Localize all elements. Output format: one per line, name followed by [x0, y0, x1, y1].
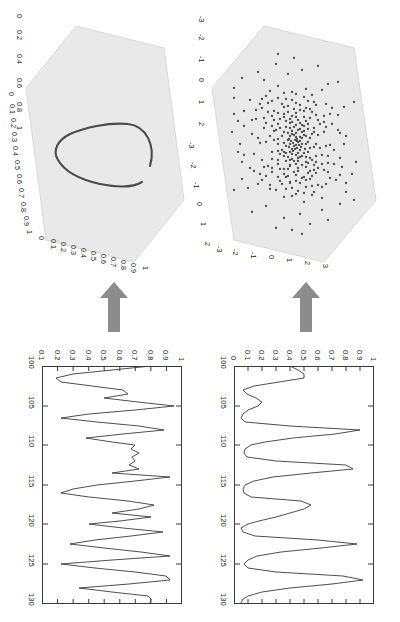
timeseries-a-xtick-4: 120 [219, 514, 228, 527]
trajectory3d-ytick-10: 0 [7, 92, 16, 96]
trajectory3d-xtick-4: 0.6 [99, 254, 108, 264]
scatter3d-xtick-6: -3 [215, 246, 224, 252]
scatter3d-xtick-4: -1 [249, 252, 258, 258]
timeseries-a-xtick-2: 110 [219, 435, 228, 447]
scatter3d-ztick-1: 1 [197, 100, 206, 104]
timeseries-a-xtick-0: 100 [219, 356, 228, 369]
trajectory3d-ytick-2: 0.8 [19, 202, 28, 212]
timeseries-a-xtick-1: 105 [219, 396, 228, 409]
rotated-figure-wrapper: 3 2 1 0 -1 -2 -3 2 1 0 -1 -2 -3 2 1 0 -1… [0, 0, 400, 622]
arrow-bottom [96, 282, 132, 332]
timeseries-b-xtick-2: 110 [27, 435, 36, 447]
timeseries-a-ytick-9: 0.9 [355, 350, 364, 361]
panel-timeseries-b: 0.1 0.2 0.3 0.4 0.5 0.6 0.7 0.8 0.9 1 10… [16, 344, 186, 606]
timeseries-a-ytick-10: 1 [369, 357, 378, 361]
scatter3d-xtick-3: 0 [267, 255, 276, 259]
figure-canvas: 3 2 1 0 -1 -2 -3 2 1 0 -1 -2 -3 2 1 0 -1… [0, 0, 400, 622]
trajectory3d-ytick-3: 0.7 [17, 188, 26, 198]
timeseries-a-ytick-5: 0.5 [299, 350, 308, 361]
timeseries-a-xtick-3: 115 [219, 475, 228, 487]
timeseries-b-ytick-7: 0.8 [146, 350, 155, 361]
timeseries-b-ytick-5: 0.6 [115, 350, 124, 361]
scatter3d-ztick-4: -2 [197, 34, 206, 40]
scatter3d-xtick-1: 2 [303, 261, 312, 265]
scatter3d-ytick-3: -1 [192, 182, 201, 188]
scatter3d-ytick-2: 0 [195, 202, 204, 206]
timeseries-b-ytick-1: 0.2 [53, 350, 62, 361]
timeseries-b-frame [43, 367, 182, 604]
scatter3d-xtick-2: 1 [285, 258, 294, 262]
timeseries-b-xtick-6: 130 [27, 593, 36, 606]
timeseries-b-xtick-0: 100 [27, 356, 36, 369]
panel-3d-scatter: 3 2 1 0 -1 -2 -3 2 1 0 -1 -2 -3 2 1 0 -1… [194, 14, 384, 274]
scatter3d-ztick-0: 2 [197, 122, 206, 126]
timeseries-b-xtick-4: 120 [27, 514, 36, 527]
panel-timeseries-a: 0 0.1 0.2 0.3 0.4 0.5 0.6 0.7 0.8 0.9 1 … [208, 344, 378, 606]
timeseries-b-svg [42, 366, 182, 604]
trajectory3d-ztick-3: 0.4 [15, 54, 24, 64]
scatter3d-box [212, 26, 376, 262]
timeseries-b-ytick-9: 1 [177, 357, 186, 361]
arrow-left-icon-2 [96, 282, 132, 332]
arrow-top [288, 282, 324, 332]
trajectory3d-ztick-4: 0.2 [15, 30, 24, 40]
scatter3d-xtick-5: -2 [231, 249, 240, 255]
trajectory3d-ytick-5: 0.5 [13, 160, 22, 170]
trajectory3d-ytick-7: 0.3 [10, 132, 19, 142]
timeseries-a-ytick-8: 0.8 [341, 350, 350, 361]
trajectory3d-xtick-0: 1 [141, 266, 150, 270]
trajectory3d-xtick-5: 0.5 [89, 251, 98, 261]
trajectory3d-xtick-3: 0.7 [109, 257, 118, 267]
trajectory3d-ytick-6: 0.4 [11, 146, 20, 156]
trajectory3d-ytick-0: 1 [25, 230, 34, 234]
timeseries-a-ytick-0: 0 [229, 356, 238, 360]
scatter3d-xtick-0: 3 [321, 264, 330, 268]
trajectory3d-box [26, 26, 184, 262]
timeseries-a-ytick-3: 0.3 [271, 350, 280, 361]
trajectory3d-xtick-2: 0.8 [119, 260, 128, 270]
timeseries-a-ytick-2: 0.2 [257, 350, 266, 361]
timeseries-b-ytick-0: 0.1 [37, 350, 46, 361]
trajectory3d-ztick-0: 1 [15, 126, 24, 130]
trajectory3d-ztick-5: 0 [15, 14, 24, 18]
scatter3d-ytick-0: 2 [203, 242, 212, 246]
scatter3d-ytick-1: 1 [199, 222, 208, 226]
timeseries-a-ytick-1: 0.1 [243, 350, 252, 361]
trajectory3d-xtick-7: 0.3 [69, 245, 78, 255]
timeseries-b-ytick-8: 0.9 [161, 350, 170, 361]
timeseries-b-xtick-3: 115 [27, 475, 36, 487]
trajectory3d-svg [4, 14, 192, 276]
timeseries-a-svg [234, 366, 374, 604]
panel-3d-trajectory: 1 0.9 0.8 0.7 0.6 0.5 0.4 0.3 0.2 0.1 0 … [4, 14, 192, 276]
timeseries-a-ytick-4: 0.4 [285, 350, 294, 361]
scatter3d-svg [194, 14, 384, 274]
timeseries-a-frame [235, 367, 374, 604]
trajectory3d-ztick-2: 0.6 [15, 78, 24, 88]
timeseries-b-ytick-3: 0.4 [84, 350, 93, 361]
timeseries-b-xtick-5: 125 [27, 554, 36, 567]
timeseries-a-xtick-6: 130 [219, 593, 228, 606]
trajectory3d-xtick-9: 0.1 [49, 239, 58, 249]
timeseries-a-xtick-5: 125 [219, 554, 228, 567]
scatter3d-ztick-2: 0 [197, 78, 206, 82]
scatter3d-ztick-3: -1 [197, 56, 206, 62]
trajectory3d-ytick-4: 0.6 [15, 174, 24, 184]
trajectory3d-xtick-8: 0.2 [59, 242, 68, 252]
arrow-left-icon [288, 282, 324, 332]
trajectory3d-xtick-10: 0 [37, 236, 46, 240]
trajectory3d-ytick-1: 0.9 [22, 216, 31, 226]
timeseries-b-ytick-4: 0.5 [99, 350, 108, 361]
scatter3d-ztick-5: -3 [197, 16, 206, 22]
trajectory3d-xtick-1: 0.9 [129, 263, 138, 273]
timeseries-b-ytick-2: 0.3 [68, 350, 77, 361]
trajectory3d-xtick-6: 0.4 [79, 248, 88, 258]
timeseries-b-ytick-6: 0.7 [130, 350, 139, 361]
timeseries-b-xtick-1: 105 [27, 396, 36, 409]
timeseries-a-ytick-7: 0.7 [327, 350, 336, 361]
timeseries-a-ytick-6: 0.6 [313, 350, 322, 361]
trajectory3d-ztick-1: 0.8 [15, 102, 24, 112]
